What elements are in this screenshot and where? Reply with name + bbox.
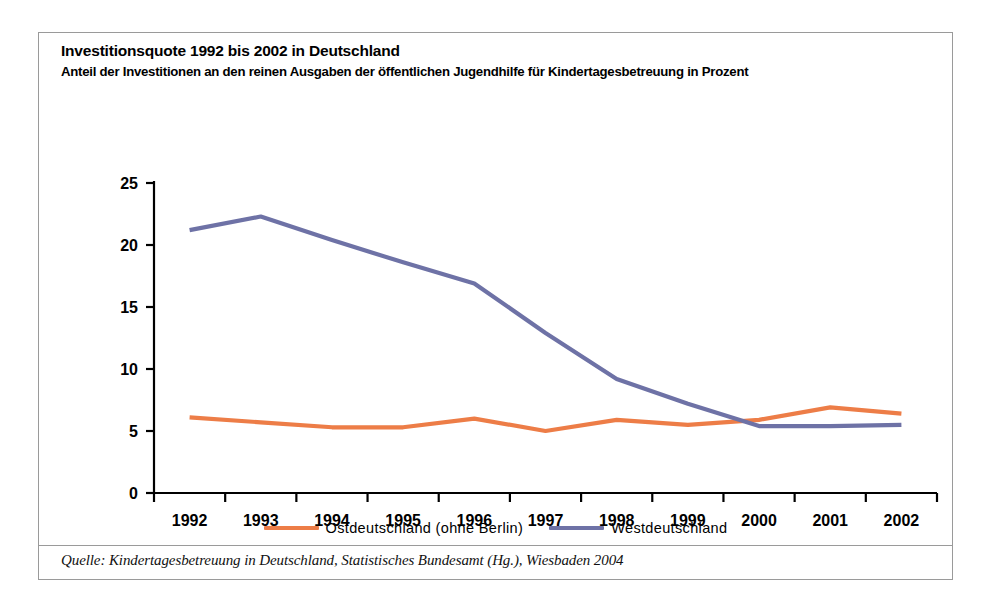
y-axis-tick-label: 0 [129,485,138,502]
plot-area: 0510152025199219931994199519961997199819… [39,33,954,581]
source-note: Quelle: Kindertagesbetreuung in Deutschl… [61,552,938,569]
line-chart-svg: 0510152025199219931994199519961997199819… [39,33,954,581]
y-axis-tick-label: 15 [120,299,138,316]
y-axis-tick-label: 10 [120,361,138,378]
y-axis-tick-label: 5 [129,423,138,440]
source-divider [39,545,952,546]
chart-legend: Ostdeutschland (ohne Berlin) Westdeutsch… [39,520,952,536]
series-layer [190,216,902,431]
y-axis-tick-label: 20 [120,237,138,254]
legend-label-ostdeutschland: Ostdeutschland (ohne Berlin) [326,520,524,536]
axes-layer: 0510152025199219931994199519961997199819… [120,175,937,529]
legend-swatch-icon [549,526,604,530]
legend-item-ostdeutschland: Ostdeutschland (ohne Berlin) [264,520,524,536]
legend-swatch-icon [264,526,319,530]
series-line-westdeutschland [190,216,902,426]
legend-item-westdeutschland: Westdeutschland [549,520,727,536]
y-axis-tick-label: 25 [120,175,138,192]
chart-figure: Investitionsquote 1992 bis 2002 in Deuts… [38,32,953,580]
legend-label-westdeutschland: Westdeutschland [611,520,727,536]
